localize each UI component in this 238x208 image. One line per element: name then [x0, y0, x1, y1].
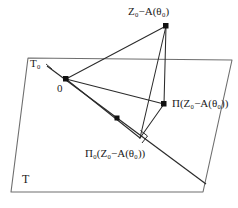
label-subspace-t0: T₀ [30, 58, 41, 69]
label-projection-plane: Π(Z₀−A(θ₀)) [172, 98, 228, 109]
projection-diagram: Z₀−A(θ₀) Π(Z₀−A(θ₀)) Π₀(Z₀−A(θ₀)) T₀ 0 T [0, 0, 238, 208]
label-top-vertex: Z₀−A(θ₀) [128, 6, 169, 17]
subspace-t0-line [47, 66, 206, 184]
point-top-vertex [163, 23, 169, 29]
point-origin [63, 76, 69, 82]
plane-t-outline [11, 58, 232, 192]
edge-top-vertex-to-projection-subspace [140, 26, 166, 138]
label-plane-t: T [22, 173, 29, 185]
label-projection-subspace: Π₀(Z₀−A(θ₀)) [85, 148, 145, 159]
point-t0-marker [115, 116, 120, 121]
label-origin: 0 [57, 83, 63, 94]
edge-top-vertex-to-projection-plane [164, 26, 166, 104]
point-projection-plane [161, 101, 167, 107]
edge-origin-to-top-vertex [66, 26, 166, 79]
edge-origin-to-projection-subspace [66, 79, 140, 138]
